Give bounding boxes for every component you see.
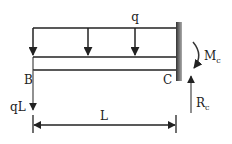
point-force-label: qL: [10, 100, 26, 114]
end-b-label: B: [24, 73, 33, 87]
moment-label: Mc: [204, 49, 221, 65]
beam-diagram: q B C qL Mc Rc L: [0, 0, 232, 144]
load-label: q: [131, 10, 139, 24]
moment-arrow-icon: [193, 42, 199, 68]
distributed-load: [33, 28, 176, 55]
beam: [33, 57, 176, 70]
end-c-label: C: [163, 73, 172, 87]
fixed-wall: [176, 22, 182, 81]
reaction-label: Rc: [196, 96, 210, 112]
length-label: L: [100, 109, 108, 123]
